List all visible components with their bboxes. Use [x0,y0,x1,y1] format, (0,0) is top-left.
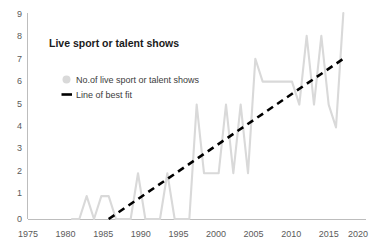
legend-label-best-fit: Line of best fit [76,90,133,100]
x-tick-1985: 1985 [93,229,113,239]
y-tick-2: 2 [17,166,22,176]
y-tick-4: 4 [17,121,22,131]
chart-container: 9 8 7 6 5 4 3 2 1 0 1975 1980 1985 1990 … [0,0,373,249]
y-axis-tick-labels: 9 8 7 6 5 4 3 2 1 0 [17,9,22,224]
x-axis-tick-labels: 1975 1980 1985 1990 1995 2000 2005 2010 … [18,229,368,239]
chart-legend: No.of live sport or talent shows Line of… [62,75,200,100]
y-tick-0: 0 [17,214,22,224]
legend-marker-circle-icon [63,76,71,84]
x-tick-1975: 1975 [18,229,38,239]
y-tick-5: 5 [17,99,22,109]
x-tick-1995: 1995 [168,229,188,239]
y-tick-8: 8 [17,31,22,41]
chart-title: Live sport or talent shows [49,37,179,49]
y-tick-1: 1 [17,188,22,198]
x-tick-1990: 1990 [131,229,151,239]
y-tick-6: 6 [17,76,22,86]
x-tick-1980: 1980 [56,229,76,239]
x-tick-2010: 2010 [281,229,301,239]
x-tick-2015: 2015 [319,229,339,239]
y-tick-9: 9 [17,9,22,19]
y-tick-3: 3 [17,143,22,153]
live-sport-talent-shows-chart: 9 8 7 6 5 4 3 2 1 0 1975 1980 1985 1990 … [0,0,373,249]
x-tick-2005: 2005 [244,229,264,239]
x-tick-2000: 2000 [206,229,226,239]
y-tick-7: 7 [17,54,22,64]
legend-label-data-series: No.of live sport or talent shows [76,75,200,85]
x-tick-2020: 2020 [348,229,368,239]
